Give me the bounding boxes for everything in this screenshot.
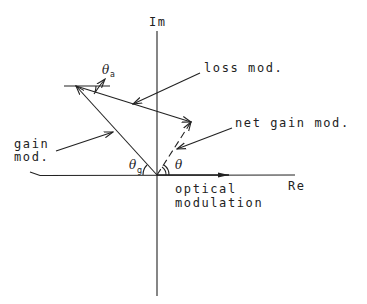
theta-a-symbol: θ [102,63,110,77]
theta-g-subscript: g [137,166,142,175]
theta-a-subscript: a [110,70,115,79]
im-axis-label: Im [149,15,167,29]
loss-mod-label: loss mod. [204,61,283,75]
optical-modulation-vector: optical modulation [157,175,263,210]
optical-modulation-label-line1: optical [175,182,237,196]
angle-theta-a: θ a [94,63,115,94]
imaginary-axis: Im [149,15,167,296]
optical-modulation-label-line2: modulation [175,196,263,210]
re-axis-label: Re [288,179,306,193]
net-gain-mod-label: net gain mod. [235,116,350,130]
theta-g-symbol: θ [129,158,137,172]
theta-symbol: θ [175,158,183,172]
net-gain-modulation-vector: net gain mod. [157,116,350,175]
gain-mod-label-line1: gain [14,137,49,151]
angle-theta: θ [162,158,183,175]
net-gain-leader-arrow [177,128,232,149]
phasor-diagram: Im Re optical modulation gain mod. loss … [0,0,367,304]
loss-mod-leader-arrow [133,73,200,104]
gain-mod-label-line2: mod. [14,150,49,164]
gain-mod-leader-arrow [56,132,113,151]
